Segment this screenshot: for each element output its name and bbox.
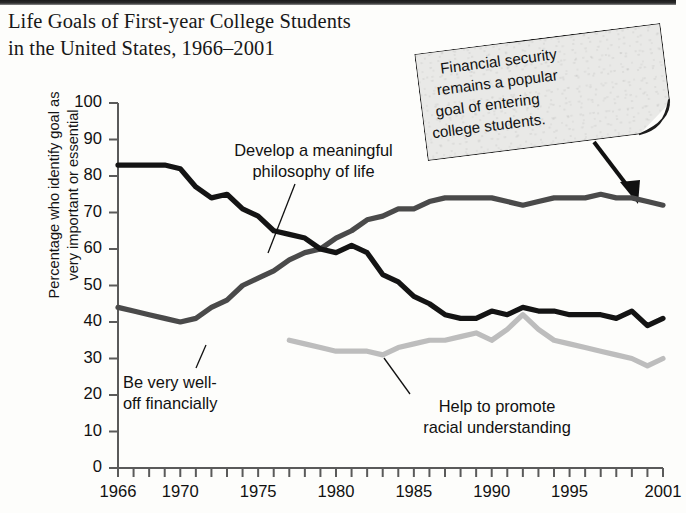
y-tick-label: 40 <box>40 311 102 331</box>
series-label-racial-line-2: racial understanding <box>398 417 596 438</box>
series-label-racial-line-1: Help to promote <box>398 396 596 417</box>
x-tick-label: 2001 <box>623 482 686 502</box>
x-tick-label: 1990 <box>452 482 532 502</box>
x-tick-label: 1975 <box>218 482 298 502</box>
series-label-philosophy-of-life: Develop a meaningful philosophy of life <box>196 140 431 181</box>
series-line <box>289 315 663 366</box>
series-label-racial-understanding: Help to promote racial understanding <box>398 396 596 437</box>
series-line <box>118 165 663 326</box>
y-axis-label-line-2: very important or essential <box>64 45 83 345</box>
y-tick-label: 90 <box>40 129 102 149</box>
y-axis-label-line-1: Percentage who identify goal as <box>45 45 64 345</box>
annotation-leader-line <box>268 184 295 253</box>
annotation-leader-line <box>196 345 206 368</box>
series-label-well-off-financially: Be very well- off financially <box>123 372 293 413</box>
x-tick-label: 1970 <box>140 482 220 502</box>
series-label-wellof-line-1: Be very well- <box>123 372 293 393</box>
x-tick-label: 1995 <box>530 482 610 502</box>
y-tick-label: 30 <box>40 348 102 368</box>
annotation-leader-line <box>384 358 410 394</box>
y-axis-label: Percentage who identify goal as very imp… <box>45 45 83 345</box>
y-tick-label: 0 <box>40 457 102 477</box>
y-tick-label: 10 <box>40 421 102 441</box>
y-tick-label: 60 <box>40 238 102 258</box>
y-tick-label: 70 <box>40 202 102 222</box>
y-tick-label: 50 <box>40 275 102 295</box>
y-tick-label: 20 <box>40 384 102 404</box>
x-tick-label: 1985 <box>374 482 454 502</box>
series-label-wellof-line-2: off financially <box>123 393 293 414</box>
y-tick-label: 80 <box>40 165 102 185</box>
series-label-philosophy-line-2: philosophy of life <box>196 161 431 182</box>
y-tick-label: 100 <box>40 92 102 112</box>
series-line <box>118 194 663 322</box>
series-label-philosophy-line-1: Develop a meaningful <box>196 140 431 161</box>
x-tick-label: 1980 <box>296 482 376 502</box>
